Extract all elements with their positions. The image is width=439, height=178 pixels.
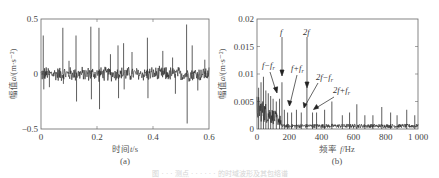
b-xtick-4: 800 — [379, 132, 393, 142]
a-xtick-3: 0.6 — [203, 132, 215, 142]
time-signal-trace — [41, 25, 209, 124]
a-xlabel: 时间t/s — [112, 144, 138, 154]
a-ytick-mid: 0 — [34, 69, 39, 79]
b-ytick-3: 0.005 — [234, 97, 255, 107]
annotation-2f: 2f — [303, 27, 311, 37]
b-xtick-1: 200 — [282, 132, 296, 142]
annotation-f-plus-fr: f+fr — [291, 63, 304, 74]
a-ytick-top: 0.5 — [27, 14, 39, 24]
b-xtick-5: 1 000 — [408, 132, 429, 142]
a-subplot-label: (a) — [120, 156, 130, 166]
annotation-f-minus-fr: f−fr — [262, 60, 275, 71]
a-ytick-bot: −0.5 — [22, 124, 39, 134]
b-subplot-label: (b) — [332, 156, 343, 166]
b-ytick-0: 0.02 — [238, 14, 254, 24]
b-xlabel: 频率 f/Hz — [319, 144, 355, 154]
b-xtick-0: 0 — [255, 132, 260, 142]
a-xtick-0: 0 — [39, 132, 44, 142]
b-ytick-2: 0.01 — [238, 69, 254, 79]
a-ylabel: 幅值a/(m·s⁻²) — [8, 49, 18, 100]
a-xtick-2: 0.4 — [147, 132, 159, 142]
annotation-f: f — [280, 27, 284, 37]
a-xtick-1: 0.2 — [91, 132, 102, 142]
plot-a: 0.5 0 −0.5 0 0.2 0.4 0.6 时间t/s 幅值a/(m·s⁻… — [8, 14, 215, 166]
figure-caption: 图 · · · 测点 · · · · · · 的时域波形及其包络谱 — [60, 168, 380, 178]
plot-b: f 2f f−fr f+fr 2f−fr 2f+fr 0.02 0.015 0.… — [217, 14, 429, 166]
annotation-2f-plus-fr: 2f+fr — [333, 85, 351, 96]
annotation-2f-minus-fr: 2f−fr — [316, 72, 334, 83]
b-ytick-4: 0 — [250, 124, 255, 134]
b-ylabel: 幅值a/(m·s⁻²) — [217, 49, 227, 100]
figure: 0.5 0 −0.5 0 0.2 0.4 0.6 时间t/s 幅值a/(m·s⁻… — [0, 0, 439, 178]
b-xtick-3: 600 — [347, 132, 361, 142]
b-xtick-2: 400 — [315, 132, 329, 142]
b-ytick-1: 0.015 — [234, 42, 255, 52]
